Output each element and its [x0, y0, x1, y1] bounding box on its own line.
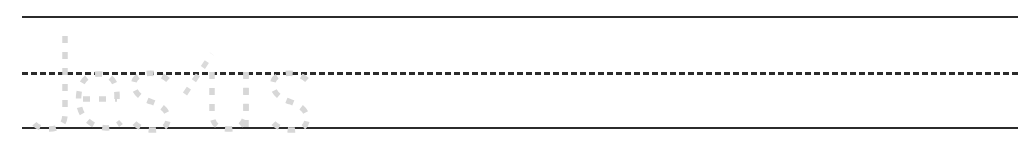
trace-letter-u	[185, 54, 246, 129]
trace-letter-e	[79, 74, 121, 128]
trace-letter-s-2	[271, 73, 307, 130]
blank-practice-space[interactable]	[352, 18, 1018, 128]
handwriting-worksheet	[0, 0, 1032, 145]
trace-letter-s-1	[132, 73, 168, 130]
trace-letter-j	[32, 36, 65, 129]
traced-word-jesus	[22, 10, 352, 135]
